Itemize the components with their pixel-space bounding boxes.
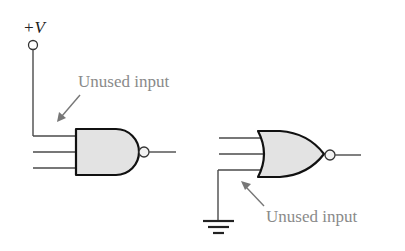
nand-inversion-bubble bbox=[139, 147, 149, 157]
nor-inversion-bubble bbox=[325, 150, 335, 160]
nand-unused-input-label: Unused input bbox=[78, 72, 169, 91]
supply-label: +V bbox=[23, 18, 47, 37]
nor-gate bbox=[258, 131, 324, 177]
nor-unused-input-label: Unused input bbox=[266, 207, 357, 226]
nor-annotation-arrow bbox=[246, 187, 264, 206]
logic-diagram: +V Unused input Unused input bbox=[0, 0, 405, 251]
arrowhead-icon bbox=[241, 181, 251, 190]
supply-terminal bbox=[29, 41, 38, 50]
nand-annotation-arrow bbox=[62, 95, 80, 116]
nand-gate bbox=[76, 129, 139, 175]
ground-icon bbox=[203, 221, 234, 233]
